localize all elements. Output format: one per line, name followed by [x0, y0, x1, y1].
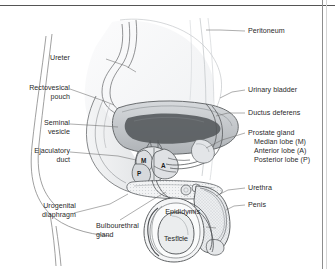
- label-prostate-gland: Prostate gland: [248, 129, 334, 138]
- label-urogenital-diaphragm: Urogenital diaphragm: [0, 202, 76, 219]
- urinary-bladder: [112, 101, 238, 154]
- label-penis: Penis: [248, 201, 308, 210]
- label-ureter: Ureter: [0, 54, 70, 63]
- lobe-marker-median: M: [141, 157, 146, 164]
- anatomy-figure: Ureter Rectovesical pouch Seminal vesicl…: [0, 0, 335, 269]
- label-median-lobe: Median lobe (M): [254, 138, 335, 147]
- label-urethra: Urethra: [248, 184, 308, 193]
- lobe-marker-anterior: A: [161, 162, 166, 169]
- label-anterior-lobe: Anterior lobe (A): [254, 147, 335, 156]
- label-testicle: Testicle: [146, 235, 188, 244]
- label-seminal-vesicle: Seminal vesicle: [0, 119, 70, 136]
- label-urinary-bladder: Urinary bladder: [248, 86, 332, 95]
- label-epididymis: Epididymis: [146, 208, 200, 217]
- lobe-marker-posterior: P: [137, 170, 141, 177]
- label-rectovesical-pouch: Rectovesical pouch: [0, 84, 70, 101]
- prostate-gland: [132, 147, 178, 184]
- label-peritoneum: Peritoneum: [248, 27, 328, 36]
- label-ductus-deferens: Ductus deferens: [248, 109, 332, 118]
- label-ejaculatory-duct: Ejaculatory duct: [0, 147, 70, 164]
- label-posterior-lobe: Posterior lobe (P): [254, 156, 335, 165]
